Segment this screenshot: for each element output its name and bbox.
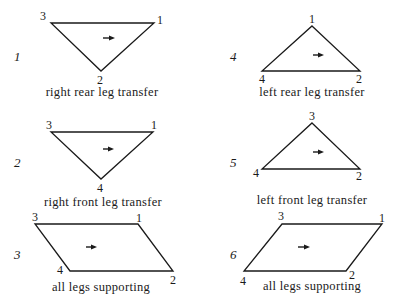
support-triangle [262,123,360,169]
support-triangle [262,26,360,71]
vertex-label: 2 [356,169,362,183]
direction-arrow-icon [103,36,115,41]
vertex-label: 1 [309,12,315,26]
vertex-label: 3 [278,209,284,223]
gait-diagram: 1 3 1 2 right rear leg transfer 2 3 1 4 … [0,0,397,300]
panel-caption: all legs supporting [52,280,151,294]
panel-caption: all legs supporting [263,279,362,293]
vertex-label: 4 [57,263,63,277]
vertex-label: 3 [40,9,46,23]
vertex-label: 1 [379,211,385,225]
panel-2: 2 3 1 4 right front leg transfer [14,118,162,209]
direction-arrow-icon [86,245,97,250]
panel-caption: right rear leg transfer [46,85,159,99]
direction-arrow-icon [313,53,324,58]
vertex-label: 3 [309,109,315,123]
panel-caption: left front leg transfer [257,193,368,207]
vertex-label: 4 [253,166,259,180]
vertex-label: 2 [170,273,176,287]
panel-number: 3 [13,247,21,262]
panel-number: 6 [230,247,237,262]
panel-4: 4 1 2 4 left rear leg transfer [230,12,365,99]
vertex-label: 2 [356,72,362,86]
direction-arrow-icon [313,150,324,155]
panel-number: 5 [230,155,237,170]
panel-number: 1 [14,49,21,64]
vertex-label: 4 [97,181,103,195]
direction-arrow-icon [298,245,310,250]
vertex-label: 4 [240,274,246,288]
vertex-label: 1 [157,13,163,27]
panel-number: 4 [230,49,237,64]
support-parallelogram [244,224,382,271]
vertex-label: 3 [46,118,52,132]
panel-6: 6 3 1 2 4 all legs supporting [230,209,385,293]
panel-caption: right front leg transfer [44,195,162,209]
vertex-label: 1 [151,118,157,132]
support-parallelogram [35,224,173,271]
panel-caption: left rear leg transfer [259,85,365,99]
support-triangle [51,132,153,179]
vertex-label: 3 [32,210,38,224]
panel-number: 2 [14,155,21,170]
panel-1: 1 3 1 2 right rear leg transfer [14,9,163,99]
direction-arrow-icon [103,147,114,152]
support-triangle [51,23,154,71]
vertex-label: 4 [259,72,265,86]
panel-3: 3 3 1 2 4 all legs supporting [13,210,176,294]
vertex-label: 1 [136,211,142,225]
panel-5: 5 3 2 4 left front leg transfer [230,109,368,207]
